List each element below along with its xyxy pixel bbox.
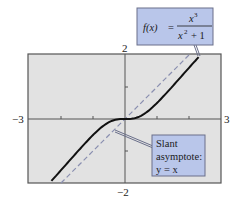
asymptote-line3: y = x [156, 164, 178, 175]
function-callout: f(x) = x 3 x 2 + 1 [137, 8, 213, 56]
y-max-label: 2 [122, 42, 128, 54]
y-min-label: −2 [117, 186, 129, 198]
x-max-label: 3 [224, 113, 230, 125]
fx-num-exp: 3 [194, 11, 198, 19]
fx-eq: = [168, 22, 174, 33]
fx-den: x [177, 30, 183, 41]
fx-lhs: f(x) [143, 22, 158, 34]
fx-den-rest: + 1 [191, 30, 205, 41]
asymptote-line1: Slant [156, 138, 178, 149]
x-min-label: −3 [12, 113, 24, 125]
figure: −3 3 2 −2 f(x) = x 3 x 2 + 1 Slant asymp… [0, 0, 237, 202]
fx-den-exp: 2 [184, 28, 188, 36]
asymptote-line2: asymptote: [156, 151, 202, 162]
